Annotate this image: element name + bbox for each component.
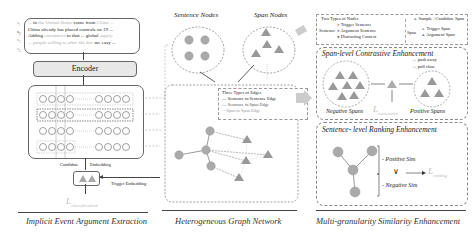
sentence-lines: ... in the United States come from China… <box>28 20 138 46</box>
legend-sentence-items: ● Trigger Sentence ● Argument Sentence ●… <box>337 22 376 40</box>
sentence-index-labels: s1s2s3s4 <box>17 20 20 54</box>
triangle-icon <box>88 175 96 182</box>
arrow-right-icon <box>296 93 304 103</box>
positive-sim-label: - Positive Sim <box>382 156 415 163</box>
section-divider <box>162 210 297 211</box>
arrow-down-icon <box>85 184 86 194</box>
arrow-down-icon <box>83 52 84 60</box>
classification-loss: Lclassification <box>66 196 98 208</box>
arrow-right-icon <box>304 90 312 106</box>
token-circles <box>29 86 143 158</box>
comparator-symbol: ∨ <box>393 167 399 176</box>
arrow-down-icon <box>83 75 84 85</box>
arrow-down-icon <box>85 158 86 170</box>
node-legend: Two Types of Nodes Sentence ● Trigger Se… <box>316 14 468 45</box>
section-divider <box>316 210 466 211</box>
sentence-nodes-label: Sentence Nodes <box>174 12 218 19</box>
trigger-embedding-label: Trigger Embedding <box>111 181 146 188</box>
legend-span-items: ▲ Trigger Span ▲ Argument Span <box>421 26 455 38</box>
graph-svg <box>150 20 310 235</box>
encoder-box: Encoder <box>33 61 137 77</box>
candidate-label: Candidate <box>60 162 78 169</box>
edge-legend-item: ·· Span to Span Edge <box>222 108 304 114</box>
negative-spans-label: Negative Spans <box>326 108 363 115</box>
span-nodes-label: Span Nodes <box>254 12 287 19</box>
embedding-label: Embedding <box>90 162 111 169</box>
sentence-nodes-ellipse <box>172 27 224 73</box>
candidate-span-embedding <box>73 171 100 186</box>
section-title: Multi-granularity Similarity Enhancement <box>316 216 460 226</box>
contrastive-loss: Lcontrastive <box>373 104 398 116</box>
section-title: Heterogeneous Graph Network <box>175 216 281 226</box>
sentence-ranking-title: Sentence- level Ranking Enhancement <box>322 125 437 134</box>
token-embedding-grid <box>28 85 144 159</box>
ranking-loss: Lranking <box>428 166 447 178</box>
triangle-icon <box>79 175 87 182</box>
sentence-4: ... people willing to alter the law are … <box>28 40 138 47</box>
section-divider <box>18 212 148 213</box>
edge-legend: Three Types of Edges — Sentence to Sente… <box>218 88 308 120</box>
positive-spans-label: Positive Spans <box>410 108 445 115</box>
arrow-left-icon <box>99 175 103 179</box>
section-title: Implicit Event Argument Extraction <box>26 216 147 226</box>
negative-sim-label: - Negative Sim <box>382 182 417 189</box>
